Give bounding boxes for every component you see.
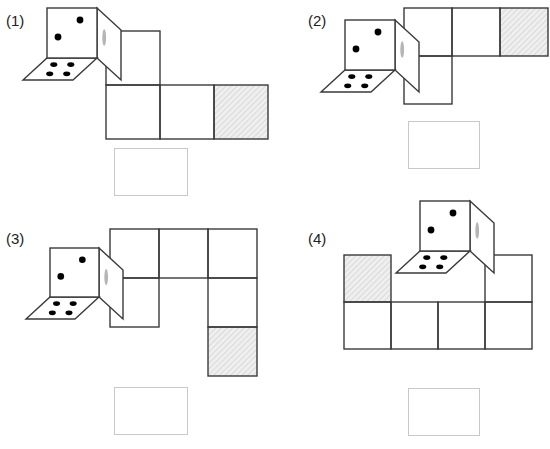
panel-3-die-bottom-pip: [70, 301, 77, 306]
panel-4-die-bottom-face: [396, 251, 470, 273]
net-cell-shaded: [500, 8, 548, 56]
net-cell-shaded-outline: [214, 85, 268, 139]
panel-3-die-front-pip: [57, 273, 64, 280]
net-cell: [159, 229, 208, 278]
panel-2-die-bottom-pip: [361, 83, 368, 88]
panel-3-die: [26, 248, 123, 319]
panel-4-die-front-pip: [450, 210, 457, 217]
panel-3-die-edge-marker-icon: [104, 269, 108, 285]
panel-1-die-bottom-pip: [63, 71, 70, 76]
panel-2-die-bottom-pip: [365, 74, 372, 79]
panel-2-die-right-face: [395, 20, 419, 92]
net-cell: [208, 229, 257, 278]
net-cell-shaded-outline: [344, 255, 391, 302]
net-cell: [106, 31, 160, 85]
panel-1-die-edge-marker-icon: [102, 29, 106, 46]
panel-3-die-bottom-pip: [53, 301, 60, 306]
net-cell: [391, 302, 438, 349]
panel-2-die-bottom-pip: [348, 74, 355, 79]
panel-label-2: (2): [308, 13, 326, 28]
panel-2-die-bottom-pip: [344, 83, 351, 88]
panel-1-die-bottom-pip: [67, 62, 74, 67]
panel-4-die-bottom-pip: [419, 264, 426, 269]
panel-2-net: [404, 8, 548, 104]
panel-4-die-bottom-pip: [436, 264, 443, 269]
panel-4-die-edge-marker-icon: [475, 222, 479, 239]
net-cell: [485, 255, 532, 302]
panel-3-die-bottom-pip: [49, 310, 56, 315]
panel-2-die: [321, 20, 419, 92]
panel-4-die-bottom-pip: [423, 255, 430, 260]
panel-4-die-bottom-pip: [440, 255, 447, 260]
net-cell: [404, 8, 452, 56]
net-cell-shaded: [214, 85, 268, 139]
worksheet-canvas: (1) (2) (3) (4): [0, 0, 550, 449]
panel-3-net: [110, 229, 257, 376]
panel-label-3: (3): [6, 231, 24, 246]
net-cell: [485, 302, 532, 349]
net-cell: [106, 85, 160, 139]
net-cell: [344, 302, 391, 349]
net-cell: [160, 85, 214, 139]
panel-label-1: (1): [6, 13, 24, 28]
panel-1-die-bottom-pip: [50, 62, 57, 67]
answer-box-4[interactable]: [408, 388, 480, 436]
panel-3-die-bottom-pip: [65, 310, 72, 315]
panel-1-die-bottom-face: [23, 58, 97, 80]
net-cell-shaded: [208, 327, 257, 376]
net-cell: [438, 302, 485, 349]
net-cell: [110, 278, 159, 327]
net-cell: [110, 229, 159, 278]
net-cell-shaded-outline: [208, 327, 257, 376]
panel-4-die-front-face: [420, 201, 470, 251]
panel-1-die-front-pip: [55, 34, 62, 41]
panel-label-4: (4): [308, 231, 326, 246]
panel-2-die-front-pip: [375, 29, 382, 36]
answer-box-1[interactable]: [114, 148, 188, 196]
panel-4-die: [396, 201, 494, 273]
panel-1-die-right-face: [97, 8, 121, 80]
net-cell: [208, 278, 257, 327]
panel-1-die-bottom-pip: [46, 71, 53, 76]
panel-3-die-front-face: [50, 248, 99, 297]
panel-1-net: [106, 31, 268, 139]
figure-vector-layer: [0, 0, 550, 449]
panel-2-die-front-face: [345, 20, 395, 70]
panel-3-die-bottom-face: [26, 297, 99, 319]
net-cell-shaded: [344, 255, 391, 302]
panel-2-die-bottom-face: [321, 70, 395, 92]
panel-4-net: [344, 255, 532, 349]
answer-box-3[interactable]: [114, 387, 188, 435]
net-cell-shaded-outline: [500, 8, 548, 56]
panel-2-die-edge-marker-icon: [400, 41, 404, 58]
panel-3-die-front-pip: [79, 256, 86, 263]
net-cell: [404, 56, 452, 104]
panel-1-die: [23, 8, 121, 80]
panel-3-die-right-face: [99, 248, 123, 319]
panel-4-die-right-face: [470, 201, 494, 273]
net-cell: [452, 8, 500, 56]
panel-1-die-front-face: [47, 8, 97, 58]
panel-2-die-front-pip: [353, 46, 360, 53]
answer-box-2[interactable]: [408, 121, 480, 169]
panel-4-die-front-pip: [428, 227, 435, 234]
panel-1-die-front-pip: [77, 17, 84, 24]
